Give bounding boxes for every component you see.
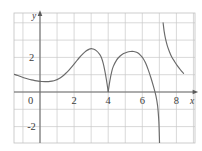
axis-name-layer: yx [31, 11, 195, 106]
tick-label-origin: 0 [28, 95, 33, 106]
tick-label-y-2: 2 [29, 52, 34, 63]
y-axis-label: y [31, 11, 37, 21]
function-curve-branch-middle [108, 51, 160, 151]
x-axis-label: x [189, 96, 195, 106]
function-curve-branch-right [163, 23, 183, 74]
plot-canvas: 024682-2 yx [0, 0, 202, 151]
tick-label-x-4: 4 [106, 95, 112, 106]
tick-label-x-6: 6 [140, 95, 145, 106]
tick-label-x-8: 8 [174, 95, 179, 106]
tick-label-x-2: 2 [71, 95, 76, 106]
tick-label-y-neg2: -2 [27, 121, 36, 132]
grid-layer [14, 13, 195, 143]
grid-frame [14, 13, 195, 143]
graph-figure: 024682-2 yx [0, 0, 202, 151]
